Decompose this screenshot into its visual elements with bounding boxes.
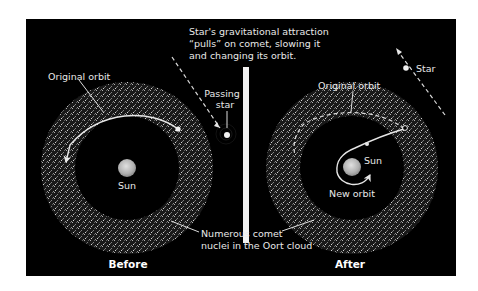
before-label: Before [108,258,147,270]
caption-line-1: Star's gravitational attraction [189,26,329,37]
comet-open-dot-after [403,126,408,131]
sun-icon-before [118,159,136,177]
after-label: After [335,258,366,270]
passing-star-dot [224,132,230,138]
comet-dot-after [365,142,369,146]
caption: Star's gravitational attraction “pulls” … [189,26,329,61]
passing-star-label-line2: star [216,99,234,110]
original-orbit-label-after: Original orbit [318,80,381,91]
sun-label-before: Sun [118,180,136,191]
comet-orbit-diagram: Sun Original orbit Passing star Before S… [0,0,478,291]
star-arrow-icon [396,48,402,55]
after-panel: Sun Original orbit New orbit Star After [266,48,445,270]
sun-icon-after [343,158,361,176]
new-orbit-label: New orbit [329,188,375,199]
oort-label-line1: Numerous comet [201,228,283,239]
caption-line-3: and changing its orbit. [189,50,296,61]
caption-line-2: “pulls” on comet, slowing it [189,38,320,49]
star-dot-after [403,65,409,71]
passing-star-label-line1: Passing [204,88,240,99]
comet-dot-before [175,126,180,131]
panel-divider [243,67,249,243]
original-orbit-label-before: Original orbit [48,71,111,82]
star-label: Star [416,63,436,74]
oort-label-line2: nuclei in the Oort cloud [201,240,312,251]
sun-label-after: Sun [364,155,382,166]
